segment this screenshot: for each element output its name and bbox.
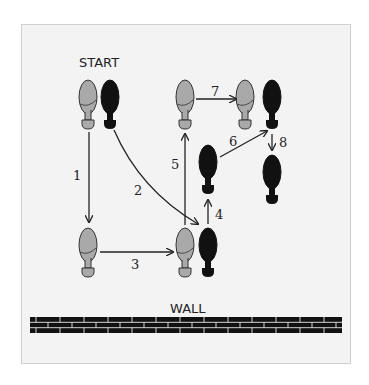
step-number-1: 1: [73, 168, 81, 183]
step-number-3: 3: [131, 257, 139, 272]
step-number-4: 4: [215, 207, 223, 222]
step4-right-foot-icon: [199, 145, 217, 194]
step8-right-foot-icon: [263, 155, 281, 204]
step-number-6: 6: [229, 134, 237, 149]
start-right-foot-icon: [101, 80, 119, 129]
step5-left-foot-icon: [176, 80, 194, 129]
start-left-foot-icon: [79, 80, 97, 129]
step6-right-foot-icon: [263, 80, 281, 129]
step3-left-foot-icon: [176, 228, 194, 277]
wall-label: WALL: [170, 301, 206, 316]
start-label: START: [79, 55, 119, 70]
step1-left-foot-icon: [79, 228, 97, 277]
step2-right-foot-icon: [199, 228, 217, 277]
step6-arrow-icon: [220, 131, 267, 157]
step-number-2: 2: [134, 183, 142, 198]
step-number-7: 7: [211, 84, 219, 99]
step7-left-foot-icon: [236, 80, 254, 129]
dance-step-diagram: START 1 2 3 4 5 6 7 8 WALL: [0, 0, 369, 385]
brick-wall: [30, 317, 342, 333]
step-number-8: 8: [279, 135, 287, 150]
step-number-5: 5: [171, 157, 179, 172]
